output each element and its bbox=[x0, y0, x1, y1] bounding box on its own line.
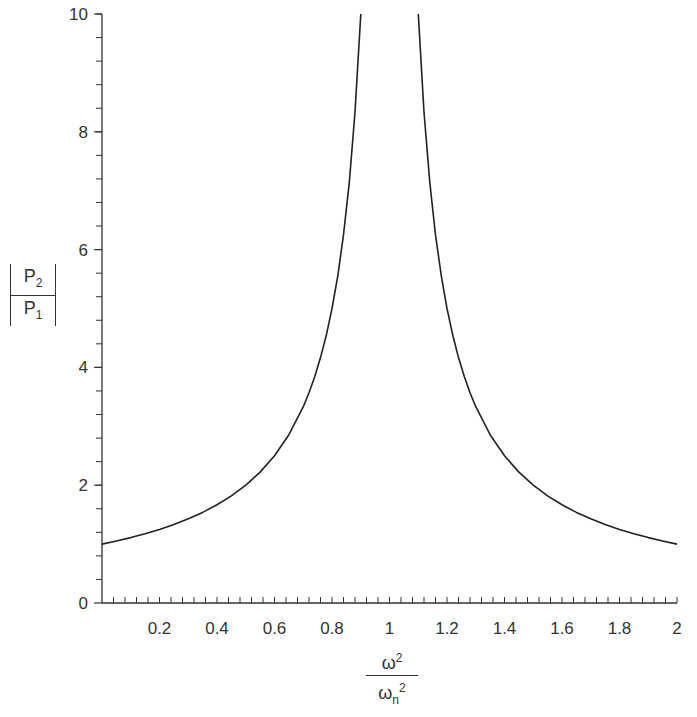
y-label-denominator: P1 bbox=[11, 298, 55, 325]
tick-labels: 0.20.40.60.811.21.41.61.820246810 bbox=[69, 5, 682, 638]
y-tick-label: 2 bbox=[79, 476, 88, 495]
y-tick-label: 6 bbox=[79, 241, 88, 260]
x-tick-label: 1.8 bbox=[608, 619, 632, 638]
y-tick-label: 8 bbox=[79, 123, 88, 142]
x-label-denominator: ωn2 bbox=[366, 678, 418, 710]
x-tick-label: 1.4 bbox=[493, 619, 517, 638]
y-tick-label: 10 bbox=[69, 5, 88, 24]
x-tick-label: 1.6 bbox=[550, 619, 574, 638]
y-label-numerator: P2 bbox=[11, 266, 55, 293]
curve-left-branch bbox=[102, 14, 361, 544]
x-tick-label: 0.8 bbox=[320, 619, 344, 638]
y-label-fraction-bar bbox=[11, 295, 55, 296]
y-tick-label: 4 bbox=[79, 358, 88, 377]
x-label-numerator: ω2 bbox=[366, 648, 418, 673]
y-axis-label: P2 P1 bbox=[10, 264, 56, 326]
x-tick-label: 0.4 bbox=[205, 619, 229, 638]
x-tick-label: 1 bbox=[385, 619, 394, 638]
x-tick-label: 0.2 bbox=[148, 619, 172, 638]
chart-canvas: 0.20.40.60.811.21.41.61.820246810 bbox=[0, 0, 697, 717]
x-tick-label: 1.2 bbox=[435, 619, 459, 638]
x-tick-label: 2 bbox=[672, 619, 681, 638]
curves bbox=[102, 14, 677, 544]
x-tick-label: 0.6 bbox=[263, 619, 287, 638]
curve-right-branch bbox=[418, 14, 677, 544]
axes bbox=[102, 14, 677, 603]
y-tick-label: 0 bbox=[79, 594, 88, 613]
x-axis-label: ω2 ωn2 bbox=[366, 648, 418, 710]
ticks bbox=[94, 14, 677, 603]
x-label-fraction-bar bbox=[366, 675, 418, 676]
